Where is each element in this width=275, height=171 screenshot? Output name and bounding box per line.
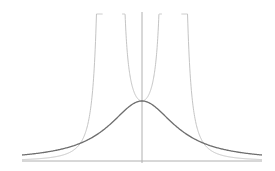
function-plot bbox=[0, 0, 275, 171]
